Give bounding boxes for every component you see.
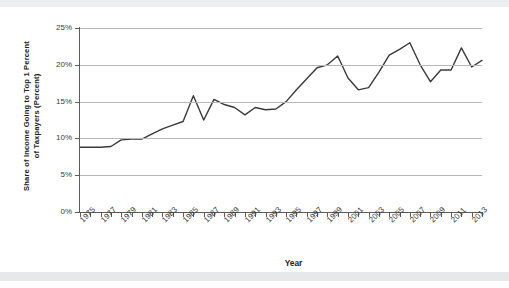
y-axis-title: Share of Income Going to Top 1 Percent o… [22,16,42,216]
gridline-10% [80,138,482,139]
x-axis-tick-labels: 1975197719791981198319851987198919911993… [0,218,509,260]
plot-area [80,28,482,212]
gridline-15% [80,102,482,103]
y-tick-label: 15% [46,98,72,106]
y-tick-mark [75,175,80,176]
data-series-line [80,28,482,212]
y-tick-mark [75,28,80,29]
gridline-25% [80,28,482,29]
line-chart-figure: Share of Income Going to Top 1 Percent o… [0,0,509,288]
y-axis-title-line-2: of Taxpayers (Percent) [32,16,42,216]
y-axis-title-line-1: Share of Income Going to Top 1 Percent [22,41,31,191]
y-tick-label: 10% [46,134,72,142]
y-tick-label: 5% [46,171,72,179]
gridline-20% [80,65,482,66]
y-tick-mark [75,212,80,213]
x-axis-title: Year [0,258,509,268]
y-axis-line [79,27,80,213]
y-tick-mark [75,138,80,139]
y-tick-mark [75,102,80,103]
y-tick-label: 25% [46,24,72,32]
y-tick-mark [75,65,80,66]
gridline-5% [80,175,482,176]
y-tick-label: 20% [46,61,72,69]
